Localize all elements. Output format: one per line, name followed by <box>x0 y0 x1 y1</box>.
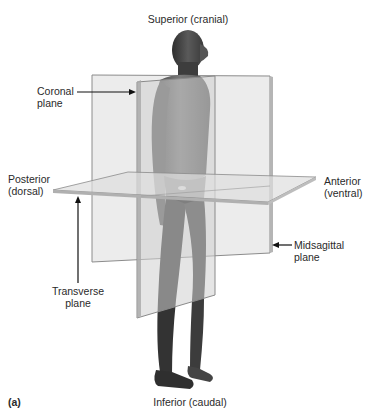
posterior-label-line1: Posterior <box>8 173 50 185</box>
superior-label: Superior (cranial) <box>140 13 236 25</box>
midsagittal-plane-label: Midsagittal plane <box>294 239 344 263</box>
coronal-plane-label: Coronal plane <box>37 85 74 109</box>
transverse-label-line1: Transverse <box>50 285 106 297</box>
planes-and-figure-illustration <box>0 0 374 410</box>
anterior-label-line2: (ventral) <box>324 187 363 199</box>
posterior-label-line2: (dorsal) <box>8 185 50 197</box>
inferior-label: Inferior (caudal) <box>140 396 240 408</box>
midsagittal-label-line1: Midsagittal <box>294 239 344 251</box>
anterior-label: Anterior (ventral) <box>324 175 363 199</box>
transverse-plane-label: Transverse plane <box>50 285 106 309</box>
coronal-label-line1: Coronal <box>37 85 74 97</box>
midsagittal-label-line2: plane <box>294 251 344 263</box>
anterior-label-line1: Anterior <box>324 175 363 187</box>
midsagittal-arrow <box>272 242 292 248</box>
transverse-arrow <box>75 196 81 283</box>
posterior-label: Posterior (dorsal) <box>8 173 50 197</box>
panel-label: (a) <box>8 396 21 408</box>
coronal-label-line2: plane <box>37 97 74 109</box>
transverse-label-line2: plane <box>50 297 106 309</box>
anatomical-planes-diagram: Superior (cranial) Coronal plane Posteri… <box>0 0 374 410</box>
